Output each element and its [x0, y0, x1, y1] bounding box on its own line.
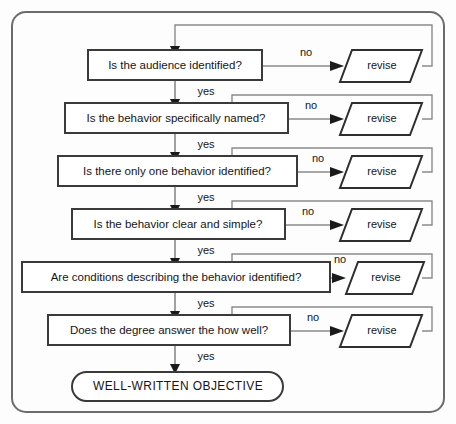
flowchart-page: Is the audience identified? yes no revis… — [0, 0, 456, 424]
yes-label-5: yes — [197, 297, 215, 309]
revise-label-6: revise — [367, 324, 396, 336]
revise-node-5[interactable]: revise — [346, 262, 424, 294]
no-arrowhead-1 — [330, 61, 344, 71]
no-label-3: no — [312, 152, 324, 164]
no-label-5: no — [334, 253, 346, 265]
decision-label-1: Is the audience identified? — [108, 59, 242, 71]
terminal-node[interactable]: WELL-WRITTEN OBJECTIVE — [72, 372, 283, 401]
revise-node-4[interactable]: revise — [340, 209, 422, 241]
no-arrowhead-2 — [330, 114, 344, 124]
decision-label-3: Is there only one behavior identified? — [83, 165, 271, 177]
revise-label-1: revise — [367, 59, 396, 71]
decision-node-1[interactable]: Is the audience identified? — [88, 50, 262, 80]
no-label-6: no — [307, 311, 319, 323]
yes-label-4: yes — [197, 244, 215, 256]
decision-node-5[interactable]: Are conditions describing the behavior i… — [22, 262, 330, 292]
decision-label-6: Does the degree answer the how well? — [70, 324, 268, 336]
revise-node-2[interactable]: revise — [340, 103, 422, 135]
yes-label-2: yes — [197, 138, 215, 150]
no-label-4: no — [302, 205, 314, 217]
revise-node-3[interactable]: revise — [340, 156, 422, 188]
decision-node-2[interactable]: Is the behavior specifically named? — [65, 103, 288, 133]
decision-node-3[interactable]: Is there only one behavior identified? — [58, 156, 297, 186]
no-label-2: no — [305, 99, 317, 111]
yes-label-3: yes — [197, 191, 215, 203]
no-arrowhead-3 — [330, 167, 344, 177]
revise-label-2: revise — [367, 112, 396, 124]
decision-node-6[interactable]: Does the degree answer the how well? — [48, 315, 290, 345]
revise-node-1[interactable]: revise — [340, 50, 422, 82]
decision-label-5: Are conditions describing the behavior i… — [51, 271, 302, 283]
revise-label-3: revise — [367, 165, 396, 177]
no-arrowhead-5 — [332, 273, 346, 283]
revise-label-5: revise — [371, 271, 400, 283]
terminal-label: WELL-WRITTEN OBJECTIVE — [93, 379, 263, 393]
decision-label-2: Is the behavior specifically named? — [87, 112, 266, 124]
no-arrowhead-4 — [330, 220, 344, 230]
flowchart-canvas: Is the audience identified? yes no revis… — [0, 0, 456, 424]
no-label-1: no — [300, 46, 312, 58]
revise-label-4: revise — [367, 218, 396, 230]
revise-node-6[interactable]: revise — [340, 315, 422, 347]
decision-label-4: Is the behavior clear and simple? — [94, 218, 263, 230]
decision-node-4[interactable]: Is the behavior clear and simple? — [72, 209, 285, 239]
yes-label-6: yes — [197, 350, 215, 362]
no-arrowhead-6 — [330, 326, 344, 336]
yes-label-1: yes — [197, 85, 215, 97]
